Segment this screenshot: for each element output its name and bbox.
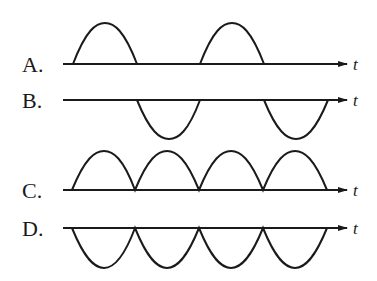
option-d-waveform [72, 228, 327, 268]
option-a: A. t [22, 23, 359, 77]
option-d-label: D. [22, 216, 43, 241]
option-a-label: A. [22, 52, 43, 77]
option-b-t-label: t [353, 91, 359, 110]
option-c-waveform [72, 151, 327, 190]
option-c-label: C. [22, 178, 42, 203]
option-d: D. t [22, 216, 359, 268]
option-b-label: B. [22, 88, 42, 113]
waveform-options-diagram: A. t B. t C. t D. t [0, 0, 377, 281]
option-c: C. t [22, 151, 359, 203]
option-a-waveform [73, 23, 264, 64]
option-d-t-label: t [353, 219, 359, 238]
option-c-t-label: t [353, 181, 359, 200]
option-b: B. t [22, 88, 359, 139]
option-b-waveform [137, 100, 328, 139]
option-a-t-label: t [353, 55, 359, 74]
